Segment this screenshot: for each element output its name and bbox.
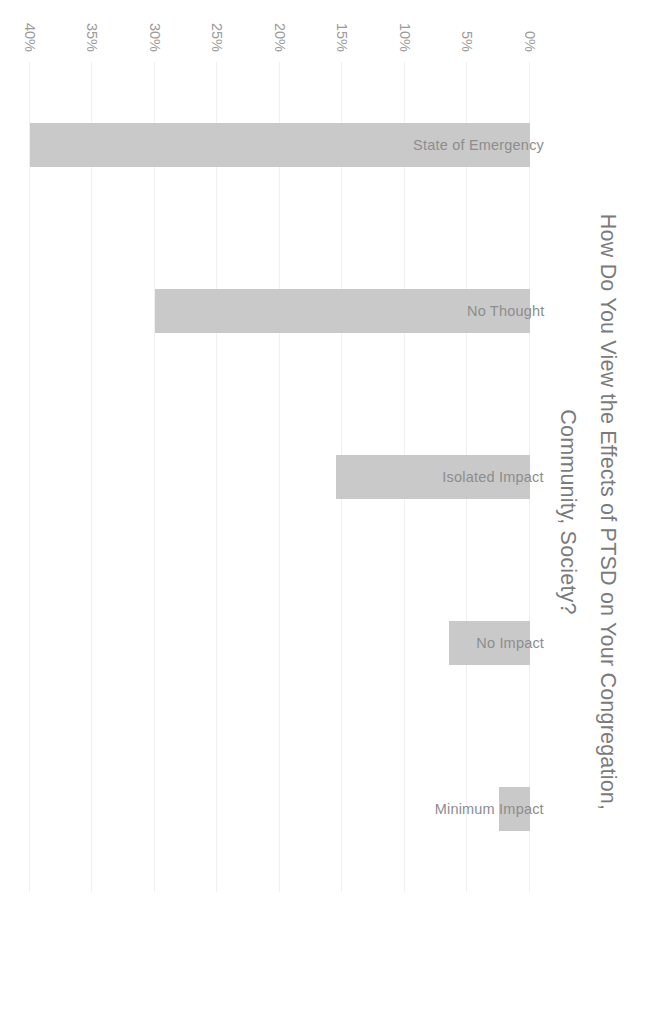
bar: Isolated Impact (336, 455, 530, 499)
gridline (217, 62, 218, 892)
bar: State of Emergency (30, 123, 530, 167)
plot-area: 0%5%10%15%20%25%30%35%40% State of Emerg… (30, 62, 530, 892)
category-label: No Impact (476, 635, 544, 651)
category-label: State of Emergency (413, 137, 544, 153)
bar: Minimum Impact (499, 787, 530, 831)
y-axis-tick-label: 25% (210, 6, 226, 52)
category-label: No Thought (466, 303, 544, 319)
y-axis-tick-label: 30% (147, 6, 163, 52)
y-axis-tick-label: 35% (85, 6, 101, 52)
bar: No Impact (449, 621, 530, 665)
rotated-figure-wrapper: How Do You View the Effects of PTSD on Y… (0, 0, 650, 1024)
gridline (92, 62, 93, 892)
y-axis-tick-label: 0% (522, 6, 538, 52)
y-axis-tick-label: 5% (460, 6, 476, 52)
chart-figure: How Do You View the Effects of PTSD on Y… (0, 0, 650, 1024)
gridline (29, 62, 30, 892)
gridline (154, 62, 155, 892)
gridline (279, 62, 280, 892)
y-axis-tick-label: 10% (397, 6, 413, 52)
chart-title: How Do You View the Effects of PTSD on Y… (548, 0, 650, 1024)
bar: No Thought (155, 289, 530, 333)
category-label: Minimum Impact (435, 801, 544, 817)
category-label: Isolated Impact (443, 469, 544, 485)
y-axis-tick-label: 40% (22, 6, 38, 52)
y-axis-tick-label: 15% (335, 6, 351, 52)
y-axis-tick-label: 20% (272, 6, 288, 52)
